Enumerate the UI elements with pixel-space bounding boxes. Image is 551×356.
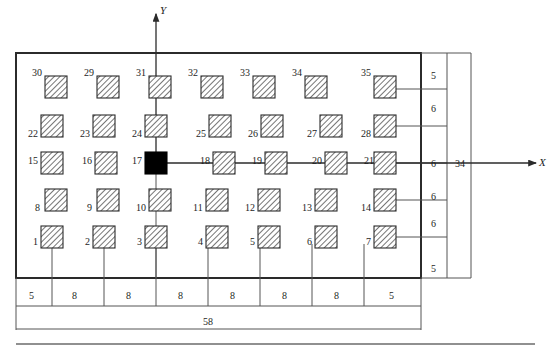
- element-square[interactable]: [149, 189, 171, 211]
- element-square[interactable]: [41, 115, 63, 137]
- bottom-dim-7: 8: [334, 290, 339, 301]
- element-label-33: 33: [240, 67, 250, 78]
- element-square[interactable]: [315, 189, 337, 211]
- element-label-15: 15: [28, 155, 38, 166]
- element-label-28: 28: [361, 128, 371, 139]
- y-axis-label: Y: [160, 4, 168, 16]
- element-square[interactable]: [374, 152, 396, 174]
- element-label-18: 18: [200, 155, 210, 166]
- element-label-25: 25: [196, 128, 206, 139]
- element-label-6: 6: [307, 236, 312, 247]
- origin-element-square-filled[interactable]: [145, 152, 167, 174]
- element-square[interactable]: [265, 152, 287, 174]
- right-dim-3: 6: [431, 158, 436, 169]
- element-square[interactable]: [97, 189, 119, 211]
- right-dim-1: 5: [431, 70, 436, 81]
- element-square[interactable]: [201, 76, 223, 98]
- element-square[interactable]: [97, 76, 119, 98]
- element-square[interactable]: [145, 226, 167, 248]
- element-square[interactable]: [258, 226, 280, 248]
- right-dim-5: 6: [431, 218, 436, 229]
- element-square[interactable]: [45, 76, 67, 98]
- element-square[interactable]: [41, 226, 63, 248]
- element-label-8: 8: [35, 202, 40, 213]
- element-label-29: 29: [84, 67, 94, 78]
- bottom-dim-8: 5: [389, 290, 394, 301]
- bottom-dim-6: 8: [282, 290, 287, 301]
- element-square[interactable]: [93, 226, 115, 248]
- element-label-19: 19: [252, 155, 262, 166]
- element-label-1: 1: [33, 236, 38, 247]
- element-label-34: 34: [292, 67, 302, 78]
- element-label-3: 3: [137, 236, 142, 247]
- element-label-13: 13: [302, 202, 312, 213]
- element-label-30: 30: [32, 67, 42, 78]
- element-label-17: 17: [132, 155, 142, 166]
- layout-diagram: 30 29 31 32 33 34 35 22 23 24 25 26 27 2…: [0, 0, 551, 356]
- overall-width-dim: 58: [203, 316, 213, 327]
- element-label-21: 21: [364, 155, 374, 166]
- element-label-16: 16: [82, 155, 92, 166]
- element-label-31: 31: [136, 67, 146, 78]
- element-square[interactable]: [320, 115, 342, 137]
- element-square[interactable]: [95, 152, 117, 174]
- element-label-23: 23: [80, 128, 90, 139]
- element-label-26: 26: [248, 128, 258, 139]
- right-dim-6: 5: [431, 263, 436, 274]
- right-overall-dim: 34: [455, 158, 465, 169]
- right-dim-2: 6: [431, 103, 436, 114]
- bottom-dim-1: 5: [29, 290, 34, 301]
- element-square[interactable]: [149, 76, 171, 98]
- element-square[interactable]: [145, 115, 167, 137]
- element-label-24: 24: [132, 128, 142, 139]
- element-square[interactable]: [206, 226, 228, 248]
- element-square[interactable]: [325, 152, 347, 174]
- element-square[interactable]: [41, 152, 63, 174]
- element-square[interactable]: [305, 76, 327, 98]
- bottom-dim-3: 8: [126, 290, 131, 301]
- element-square[interactable]: [45, 189, 67, 211]
- element-square[interactable]: [209, 115, 231, 137]
- element-square[interactable]: [253, 76, 275, 98]
- element-square[interactable]: [374, 76, 396, 98]
- element-square[interactable]: [258, 189, 280, 211]
- element-label-4: 4: [198, 236, 203, 247]
- element-label-11: 11: [193, 202, 203, 213]
- element-square[interactable]: [206, 189, 228, 211]
- element-label-27: 27: [307, 128, 317, 139]
- element-label-14: 14: [361, 202, 371, 213]
- element-label-7: 7: [366, 236, 371, 247]
- element-label-20: 20: [312, 155, 322, 166]
- bottom-dim-5: 8: [230, 290, 235, 301]
- element-label-12: 12: [245, 202, 255, 213]
- element-square[interactable]: [261, 115, 283, 137]
- element-label-5: 5: [250, 236, 255, 247]
- x-axis-label: X: [538, 156, 547, 168]
- element-label-22: 22: [28, 128, 38, 139]
- figure-container: 30 29 31 32 33 34 35 22 23 24 25 26 27 2…: [0, 0, 551, 356]
- right-dim-4: 6: [431, 191, 436, 202]
- element-square[interactable]: [213, 152, 235, 174]
- element-label-9: 9: [87, 202, 92, 213]
- element-square[interactable]: [374, 226, 396, 248]
- bottom-dim-2: 8: [72, 290, 77, 301]
- element-label-35: 35: [361, 67, 371, 78]
- element-label-2: 2: [85, 236, 90, 247]
- bottom-dim-4: 8: [178, 290, 183, 301]
- element-label-10: 10: [136, 202, 146, 213]
- element-label-32: 32: [188, 67, 198, 78]
- element-square[interactable]: [93, 115, 115, 137]
- element-square[interactable]: [374, 115, 396, 137]
- element-square[interactable]: [374, 189, 396, 211]
- element-square[interactable]: [315, 226, 337, 248]
